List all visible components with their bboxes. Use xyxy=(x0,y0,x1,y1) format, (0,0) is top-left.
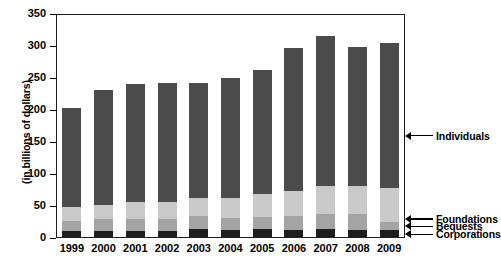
legend-item-corporations: Corporations xyxy=(405,228,501,240)
bar-segment-corporations xyxy=(158,231,177,238)
bar-segment-corporations xyxy=(380,230,399,238)
leader-arrow-icon xyxy=(405,131,433,140)
bar-segment-corporations xyxy=(126,231,145,238)
bar-column xyxy=(62,108,81,238)
bar-segment-bequests xyxy=(62,221,81,231)
bar-column xyxy=(126,84,145,238)
bar-segment-foundations xyxy=(126,202,145,219)
bar-segment-foundations xyxy=(348,186,367,214)
x-axis-tick-label: 2001 xyxy=(119,242,151,254)
x-axis-tick-label: 2008 xyxy=(341,242,373,254)
bar-segment-bequests xyxy=(316,214,335,229)
x-axis-tick-label: 2009 xyxy=(373,242,405,254)
bar-segment-individuals xyxy=(94,90,113,205)
bar-segment-corporations xyxy=(253,229,272,238)
x-axis-tick-label: 1999 xyxy=(56,242,88,254)
bar-segment-bequests xyxy=(158,219,177,231)
y-axis-tick-label: 150 xyxy=(16,136,46,147)
bar-segment-individuals xyxy=(348,47,367,187)
bar-segment-corporations xyxy=(221,230,240,238)
legend-item-individuals: Individuals xyxy=(405,130,490,142)
bar-segment-foundations xyxy=(253,194,272,217)
y-axis-tick-label: 0 xyxy=(16,232,46,243)
bar-segment-bequests xyxy=(221,218,240,231)
x-axis-tick-label: 2000 xyxy=(88,242,120,254)
bar-segment-bequests xyxy=(348,214,367,229)
bar-segment-corporations xyxy=(348,230,367,238)
bar-segment-corporations xyxy=(94,231,113,238)
y-axis-tick-label: 200 xyxy=(16,104,46,115)
bar-segment-individuals xyxy=(253,70,272,194)
bar-segment-foundations xyxy=(380,188,399,222)
bar-column xyxy=(158,83,177,238)
bar-column xyxy=(221,78,240,238)
bar-segment-bequests xyxy=(94,219,113,231)
bar-segment-corporations xyxy=(62,231,81,238)
y-axis-tick-labels: 050100150200250300350 xyxy=(14,0,46,267)
bar-column xyxy=(189,83,208,238)
legend-label: Individuals xyxy=(433,130,490,142)
x-axis-tick-label: 2006 xyxy=(278,242,310,254)
bar-segment-foundations xyxy=(62,207,81,222)
bar-segment-bequests xyxy=(380,222,399,230)
bar-segment-foundations xyxy=(94,205,113,220)
x-axis-tick-label: 2002 xyxy=(151,242,183,254)
bar-segment-bequests xyxy=(284,216,303,230)
bar-segment-bequests xyxy=(253,217,272,229)
legend: IndividualsFoundationsBequestsCorporatio… xyxy=(405,0,490,267)
bar-column xyxy=(348,47,367,238)
bar-segment-individuals xyxy=(189,83,208,199)
x-axis-tick-label: 2003 xyxy=(183,242,215,254)
bar-segment-foundations xyxy=(158,202,177,219)
bar-segment-individuals xyxy=(316,36,335,186)
bar-segment-individuals xyxy=(221,78,240,198)
x-axis-tick-label: 2004 xyxy=(215,242,247,254)
x-axis-tick-labels: 1999200020012002200320042005200620072008… xyxy=(56,242,405,258)
bar-segment-individuals xyxy=(158,83,177,202)
bar-segment-foundations xyxy=(221,198,240,217)
x-axis-tick-label: 2005 xyxy=(246,242,278,254)
bar-column xyxy=(380,43,399,238)
bar-segment-corporations xyxy=(316,229,335,238)
y-axis-tick-label: 100 xyxy=(16,168,46,179)
bar-segment-foundations xyxy=(316,186,335,214)
bar-segment-foundations xyxy=(189,198,208,216)
y-axis-tick-label: 50 xyxy=(16,200,46,211)
bar-segment-individuals xyxy=(380,43,399,188)
bar-column xyxy=(94,90,113,238)
bar-segment-corporations xyxy=(284,230,303,238)
bar-column xyxy=(253,70,272,238)
bar-segment-individuals xyxy=(284,48,303,191)
bar-segment-foundations xyxy=(284,191,303,216)
y-axis-tick-label: 350 xyxy=(16,8,46,19)
x-axis-tick-label: 2007 xyxy=(310,242,342,254)
bars-area xyxy=(56,14,405,238)
bar-segment-corporations xyxy=(189,229,208,238)
y-axis-tick-label: 250 xyxy=(16,72,46,83)
leader-arrow-icon xyxy=(405,230,433,239)
bar-segment-individuals xyxy=(62,108,81,207)
y-axis-tick-mark xyxy=(50,238,56,239)
bar-column xyxy=(316,36,335,238)
bar-segment-bequests xyxy=(189,216,208,229)
bar-segment-individuals xyxy=(126,84,145,202)
bar-column xyxy=(284,48,303,238)
y-axis-tick-label: 300 xyxy=(16,40,46,51)
legend-label: Corporations xyxy=(433,228,501,240)
bar-segment-bequests xyxy=(126,219,145,231)
